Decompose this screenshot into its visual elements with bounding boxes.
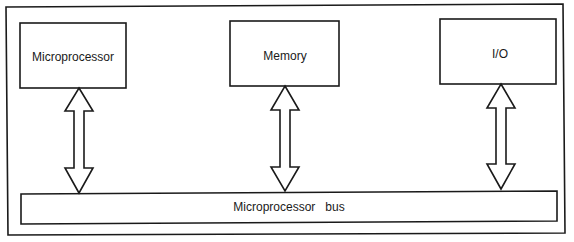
memory-block: Memory (230, 21, 339, 86)
io-block: I/O (440, 19, 556, 84)
microprocessor-label: Microprocessor (32, 50, 114, 64)
memory-label: Memory (263, 49, 306, 63)
system-diagram: Microprocessor Memory I/O Microprocessor… (0, 0, 574, 242)
bus-label: Microprocessor bus (233, 200, 344, 214)
io-label: I/O (492, 47, 508, 61)
microprocessor-block: Microprocessor (20, 23, 126, 88)
microprocessor-bus: Microprocessor bus (21, 191, 557, 224)
